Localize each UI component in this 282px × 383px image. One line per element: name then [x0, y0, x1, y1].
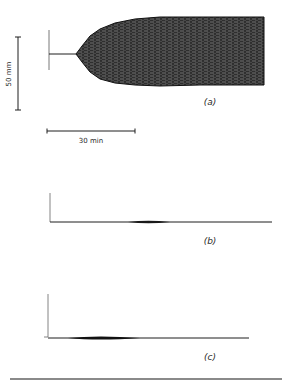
horizontal-scale-bar [47, 129, 135, 134]
panel-c-label: (c) [204, 352, 216, 362]
vertical-scale-label: 50 mm [5, 62, 13, 87]
panel-c-trace [44, 294, 249, 340]
panel-a-label: (a) [204, 97, 217, 107]
figure-canvas [0, 0, 282, 383]
panel-b-trace [50, 193, 272, 223]
vertical-scale-bar [15, 37, 21, 110]
horizontal-scale-label: 30 min [79, 137, 103, 145]
panel-b-label: (b) [204, 236, 217, 246]
panel-a-trace [49, 17, 264, 86]
